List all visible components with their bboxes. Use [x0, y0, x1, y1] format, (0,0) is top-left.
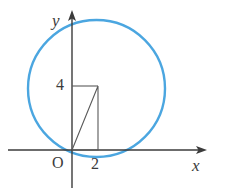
geometry-figure: y x 4 2 O: [0, 0, 229, 191]
x-tick-label-2: 2: [91, 156, 99, 172]
x-axis: [8, 146, 207, 154]
x-axis-label: x: [192, 157, 200, 174]
y-axis: [68, 10, 76, 188]
right-triangle: [72, 86, 98, 150]
origin-label: O: [52, 155, 64, 171]
y-axis-label: y: [52, 12, 60, 29]
y-tick-label-4: 4: [56, 77, 64, 93]
